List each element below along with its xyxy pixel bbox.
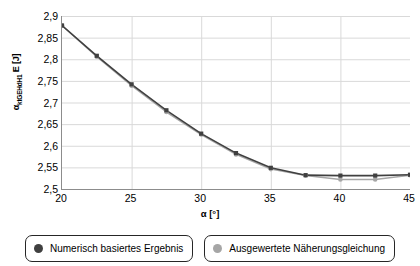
data-point — [164, 108, 168, 112]
x-axis-tick-labels: 202530354045 — [0, 192, 420, 208]
y-tick-label: 2,55 — [38, 161, 58, 173]
y-tick-label: 2,85 — [38, 32, 58, 44]
data-point — [408, 173, 410, 177]
data-point — [373, 177, 378, 182]
legend-item[interactable]: Ausgewertete Näherungsgleichung — [204, 235, 395, 262]
data-point — [338, 177, 343, 182]
y-tick-label: 2,8 — [43, 53, 58, 65]
data-point — [373, 173, 377, 177]
x-axis-title: α [°] — [0, 208, 420, 219]
chart-legend: Numerisch basiertes ErgebnisAusgewertete… — [0, 234, 420, 262]
data-point — [338, 173, 342, 177]
line-chart: αktGEHdH1 E [J] 2,52,552,62,652,72,752,8… — [0, 0, 420, 228]
legend-marker-icon — [213, 244, 222, 253]
y-tick-label: 2,9 — [43, 10, 58, 22]
data-point — [130, 82, 134, 86]
data-point — [234, 151, 238, 155]
data-point — [269, 166, 273, 170]
x-tick-label: 45 — [403, 192, 415, 204]
legend-item-label: Ausgewertete Näherungsgleichung — [229, 243, 385, 254]
x-tick-label: 40 — [334, 192, 346, 204]
y-tick-label: 2,75 — [38, 75, 58, 87]
y-tick-label: 2,65 — [38, 118, 58, 130]
chart-screenshot: αktGEHdH1 E [J] 2,52,552,62,652,72,752,8… — [0, 0, 420, 266]
data-point — [199, 132, 203, 136]
legend-item[interactable]: Numerisch basiertes Ergebnis — [25, 235, 193, 262]
y-axis-title-symbol: α — [11, 105, 21, 110]
data-point — [62, 23, 64, 27]
x-tick-label: 20 — [55, 192, 67, 204]
x-tick-label: 25 — [125, 192, 137, 204]
y-tick-label: 2,7 — [43, 97, 58, 109]
plot-area — [61, 16, 410, 190]
y-tick-label: 2,6 — [43, 140, 58, 152]
legend-marker-icon — [34, 244, 43, 253]
x-tick-label: 30 — [194, 192, 206, 204]
x-tick-label: 35 — [264, 192, 276, 204]
data-point — [95, 54, 99, 58]
legend-item-label: Numerisch basiertes Ergebnis — [50, 243, 183, 254]
y-axis-title-unit: E [J] — [11, 54, 21, 73]
data-point — [304, 173, 308, 177]
plot-svg — [62, 16, 410, 189]
